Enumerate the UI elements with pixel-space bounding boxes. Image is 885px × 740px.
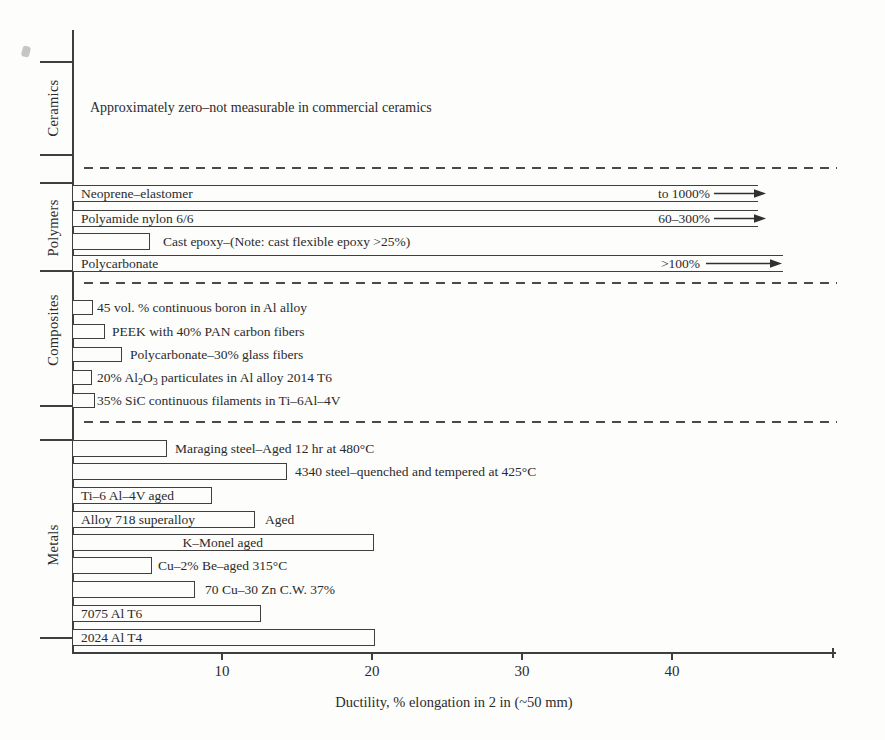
bar-label: 7075 Al T6 [73,606,142,622]
bar-label: Polycarbonate [73,256,158,272]
bar-label-pc-glass: Polycarbonate–30% glass fibers [130,347,303,363]
x-tick-label-40: 40 [652,663,692,680]
label-part: particulates in Al alloy 2014 T6 [158,370,332,385]
range-note-polyamide: 60–300% [600,211,710,227]
category-label-composites: Composites [45,270,65,390]
bar-label-maraging: Maraging steel–Aged 12 hr at 480°C [175,441,374,457]
bar-cu-be [72,557,152,574]
category-label-ceramics: Ceramics [45,48,65,168]
bar-4340-steel [72,463,287,480]
bar-suffix-aged: Aged [265,512,294,528]
range-note-neoprene: to 1000% [600,186,710,202]
bar-al2o3-particulates [72,370,92,385]
label-part: O [143,370,153,385]
x-tick [521,652,523,660]
x-tick [221,652,223,660]
category-tick [40,637,73,639]
x-tick-label-20: 20 [352,663,392,680]
separator-dashed-line [84,282,837,284]
bar-label-boron: 45 vol. % continuous boron in Al alloy [97,300,307,316]
x-axis-title: Ductility, % elongation in 2 in (~50 mm) [72,694,836,711]
x-tick-end [832,648,834,658]
bar-label: 2024 Al T4 [73,630,142,646]
bar-cast-epoxy [72,233,150,250]
bar-label-cu-be: Cu–2% Be–aged 315°C [158,558,287,574]
x-axis-line [72,652,836,654]
bar-label-cu-zn: 70 Cu–30 Zn C.W. 37% [205,582,335,598]
x-tick [671,652,673,660]
x-tick-label-30: 30 [502,663,542,680]
bar-label-cast-epoxy: Cast epoxy–(Note: cast flexible epoxy >2… [163,234,410,250]
bar-maraging-steel [72,440,167,457]
right-arrow-icon [714,213,766,224]
bar-7075-al: 7075 Al T6 [72,605,261,622]
bar-label: Alloy 718 superalloy [73,512,195,528]
bar-label: K–Monel aged [182,535,263,551]
bar-label: Ti–6 Al–4V aged [73,488,174,504]
x-tick-label-10: 10 [202,663,242,680]
label-part: 20% Al [97,370,138,385]
bar-label: Neoprene–elastomer [73,186,193,202]
ductility-bar-chart: Ceramics Polymers Composites Metals Appr… [0,0,885,740]
bar-2024-al: 2024 Al T4 [72,629,375,646]
bar-ti6al4v: Ti–6 Al–4V aged [72,487,212,504]
separator-dashed-line [84,167,837,169]
category-label-metals: Metals [45,485,65,605]
range-note-polycarbonate: >100% [590,256,700,272]
ceramics-note: Approximately zero–not measurable in com… [90,100,432,116]
category-tick [40,439,73,441]
bar-boron-al-alloy [72,300,93,315]
category-tick [40,405,73,407]
bar-alloy-718: Alloy 718 superalloy [72,511,255,528]
separator-dashed-line [84,421,837,423]
bar-cu-zn [72,581,195,598]
x-tick [371,652,373,660]
bar-k-monel: K–Monel aged [72,534,374,551]
bar-polycarbonate-glass-fiber [72,347,122,362]
bar-label-4340: 4340 steel–quenched and tempered at 425°… [295,464,536,480]
bar-label-peek: PEEK with 40% PAN carbon fibers [112,324,305,340]
bar-label-sic: 35% SiC continuous filaments in Ti–6Al–4… [97,393,340,409]
right-arrow-icon [714,188,766,199]
right-arrow-icon [706,258,782,269]
bar-sic-filaments [72,393,95,408]
bar-label-al2o3: 20% Al2O3 particulates in Al alloy 2014 … [97,370,332,390]
bar-label: Polyamide nylon 6/6 [73,211,194,227]
scan-artifact [21,45,31,58]
bar-peek-carbon-fiber [72,324,105,339]
